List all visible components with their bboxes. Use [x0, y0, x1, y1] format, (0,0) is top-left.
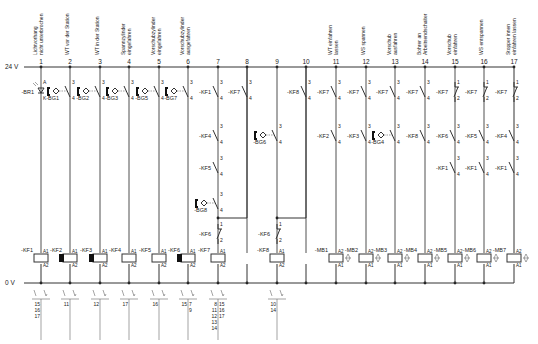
terminal-label: 3	[102, 79, 105, 85]
reference-number: 11	[64, 301, 69, 307]
column-description: WT vor der Station	[64, 13, 70, 55]
device-tag: -KF1	[495, 165, 507, 171]
column-description: lassen	[333, 40, 339, 55]
coil-tag: -KF1	[21, 247, 33, 253]
column-2: 2WT vor der Station	[64, 13, 72, 284]
coil-terminal: A1	[397, 263, 403, 268]
device-tag: -BG7	[164, 95, 177, 101]
column-number: 9	[275, 58, 279, 65]
coil-terminal: A2	[72, 263, 78, 268]
coil-body	[211, 254, 225, 262]
terminal-label: 3	[220, 123, 223, 129]
coil-body	[270, 254, 284, 262]
contact-bg7: 34-BG7	[164, 79, 193, 101]
column-5: 5Vorschubzylindereingefahren	[150, 17, 162, 285]
suppressor-diode-icon	[375, 254, 381, 262]
reference-number: 17	[122, 301, 128, 307]
no-blade	[450, 130, 455, 141]
suppressor-diode-icon	[434, 254, 440, 262]
proximity-sensor-icon	[78, 88, 80, 95]
column-description: Arbeitsendschalter	[422, 13, 428, 55]
coil-tag: -MB1	[315, 247, 328, 253]
coil-tag: -MB3	[374, 247, 387, 253]
terminal-label: 4	[220, 95, 223, 101]
contact-kf7: 34-KF7	[406, 79, 430, 101]
proximity-sensor-icon	[196, 200, 198, 207]
column-description: einfahren lassen	[511, 18, 517, 55]
coil-body	[34, 254, 48, 262]
column-1: 1Lichtvorhangnicht unterbrochen	[32, 13, 44, 284]
coil-fill-marker	[89, 254, 94, 262]
terminal-label: 3	[190, 79, 193, 85]
contact-kf7: 34-KF7	[228, 79, 252, 101]
terminal-label: 3	[397, 79, 400, 85]
proximity-diamond-icon	[378, 132, 384, 138]
terminal-label: 3	[457, 123, 460, 129]
column-number: 5	[157, 58, 161, 65]
column-description: eingefahren	[126, 28, 132, 55]
terminal-label: 4	[72, 95, 75, 101]
terminal-label: 2	[486, 95, 489, 101]
contact-glyph-icon	[122, 290, 135, 296]
column-number: 16	[480, 58, 488, 65]
terminal-label: 4	[190, 95, 193, 101]
column-number: 2	[68, 58, 72, 65]
no-blade	[154, 86, 159, 97]
terminal-label: 1	[516, 79, 519, 85]
no-blade	[390, 86, 395, 97]
coil-terminal: A1	[516, 263, 522, 268]
contact-kf6: 12-KF6	[258, 221, 282, 244]
terminal-label: 3	[486, 155, 489, 161]
contact-glyph-icon	[34, 290, 47, 296]
coil-terminal: A2	[279, 263, 285, 268]
coil-terminal: A1	[368, 263, 374, 268]
device-tag: -KF1	[465, 165, 477, 171]
contact-glyph-icon	[270, 290, 283, 296]
coil-tag: -MB6	[463, 247, 476, 253]
reference-number: 15	[181, 301, 187, 307]
coil-terminal: A1	[131, 249, 137, 254]
column-6: 6Vorschubzylinderausgefahren	[179, 17, 191, 285]
reference-number: 16	[152, 301, 158, 307]
device-tag: -KF7	[436, 89, 448, 95]
device-tag: -KF3	[347, 133, 359, 139]
column-number: 7	[216, 58, 220, 65]
terminal-label: 4	[220, 171, 223, 177]
coil-terminal: A1	[338, 263, 344, 268]
column-number: 13	[391, 58, 399, 65]
column-17: 17Stopper inneneinfahren lassen	[505, 18, 518, 68]
terminal-label: 2	[457, 95, 460, 101]
contact-reference-table: 17	[120, 290, 138, 340]
column-number: 12	[362, 58, 370, 65]
terminal-label: 3	[279, 123, 282, 129]
device-tag: -KF4	[199, 133, 211, 139]
contact-kf8: 34-KF8	[406, 123, 430, 145]
coil-terminal: A2	[161, 263, 167, 268]
contact-kf1: 34-KF1	[436, 155, 460, 177]
terminal-label: 3	[516, 155, 519, 161]
terminal-label: 3	[368, 123, 371, 129]
proximity-diamond-icon	[260, 132, 266, 138]
terminal-label: 3	[516, 123, 519, 129]
rail-label-0v: 0 V	[5, 279, 15, 286]
coil-tag: -KF5	[139, 247, 151, 253]
contact-kf7: 12-KF7	[465, 79, 489, 102]
coil-terminal: A2	[43, 263, 49, 268]
relay-coil-kf4: -KF4A1A2	[109, 247, 137, 268]
column-13: 13Vorschubausfahren	[386, 33, 399, 285]
terminal-label: 4	[338, 139, 341, 145]
terminal-label: 3	[220, 191, 223, 197]
device-tag: -KF6	[199, 231, 211, 237]
device-tag: -KF7	[495, 89, 507, 95]
terminal-label: 3	[131, 79, 134, 85]
suppressor-diode-icon	[523, 254, 529, 262]
terminal-label: 3	[220, 155, 223, 161]
column-3: 3WT in der Station	[94, 16, 102, 284]
no-blade	[479, 162, 484, 173]
coil-terminal: A2	[397, 249, 403, 254]
device-tag: -BG3	[105, 95, 118, 101]
device-tag: -KF5	[199, 165, 211, 171]
coil-terminal: A1	[427, 263, 433, 268]
contact-bg2: 34-BG2	[76, 79, 105, 101]
contact-bg6: 34-BG6	[253, 123, 282, 145]
